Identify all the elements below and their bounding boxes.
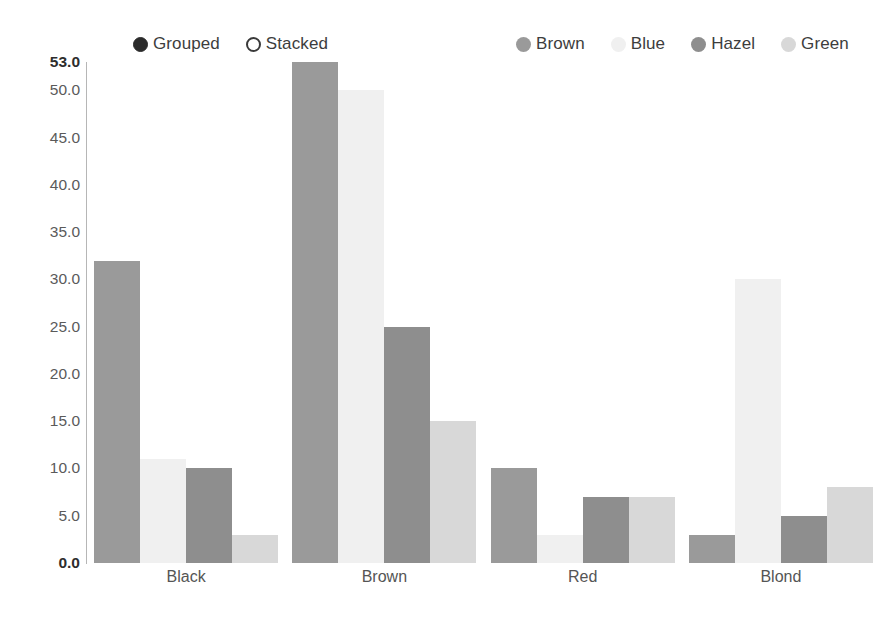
bar-brown-hazel[interactable] — [384, 327, 430, 563]
y-tick-label: 50.0 — [50, 81, 80, 99]
bar-group-red — [491, 62, 675, 563]
bars-area — [87, 62, 880, 563]
bar-black-green[interactable] — [232, 535, 278, 563]
bar-red-hazel[interactable] — [583, 497, 629, 563]
y-tick-label: 20.0 — [50, 365, 80, 383]
bar-brown-green[interactable] — [430, 421, 476, 563]
bar-group-black — [94, 62, 278, 563]
y-tick-label: 45.0 — [50, 129, 80, 147]
bar-black-brown[interactable] — [94, 261, 140, 563]
bar-blond-brown[interactable] — [689, 535, 735, 563]
y-axis-ticks: 0.05.010.015.020.025.030.035.040.045.050… — [0, 0, 80, 624]
bar-chart-plot: 0.05.010.015.020.025.030.035.040.045.050… — [0, 0, 888, 624]
y-tick-label: 35.0 — [50, 223, 80, 241]
bar-group-blond — [689, 62, 873, 563]
bar-red-brown[interactable] — [491, 468, 537, 563]
x-tick-label-red: Red — [568, 568, 597, 586]
x-tick-label-blond: Blond — [760, 568, 801, 586]
bar-blond-hazel[interactable] — [781, 516, 827, 563]
y-tick-label: 15.0 — [50, 412, 80, 430]
x-tick-label-black: Black — [167, 568, 206, 586]
y-tick-label: 40.0 — [50, 176, 80, 194]
bar-brown-brown[interactable] — [292, 62, 338, 563]
bar-blond-blue[interactable] — [735, 279, 781, 563]
bar-black-blue[interactable] — [140, 459, 186, 563]
y-tick-label: 0.0 — [58, 554, 80, 572]
bar-blond-green[interactable] — [827, 487, 873, 563]
bar-brown-blue[interactable] — [338, 90, 384, 563]
y-tick-label: 25.0 — [50, 318, 80, 336]
bar-group-brown — [292, 62, 476, 563]
bar-red-blue[interactable] — [537, 535, 583, 563]
bar-red-green[interactable] — [629, 497, 675, 563]
x-tick-label-brown: Brown — [362, 568, 407, 586]
bar-black-hazel[interactable] — [186, 468, 232, 563]
y-tick-label: 5.0 — [58, 507, 80, 525]
y-tick-label: 53.0 — [50, 53, 80, 71]
x-axis-labels: BlackBrownRedBlond — [87, 568, 880, 598]
y-tick-label: 30.0 — [50, 270, 80, 288]
y-tick-label: 10.0 — [50, 459, 80, 477]
